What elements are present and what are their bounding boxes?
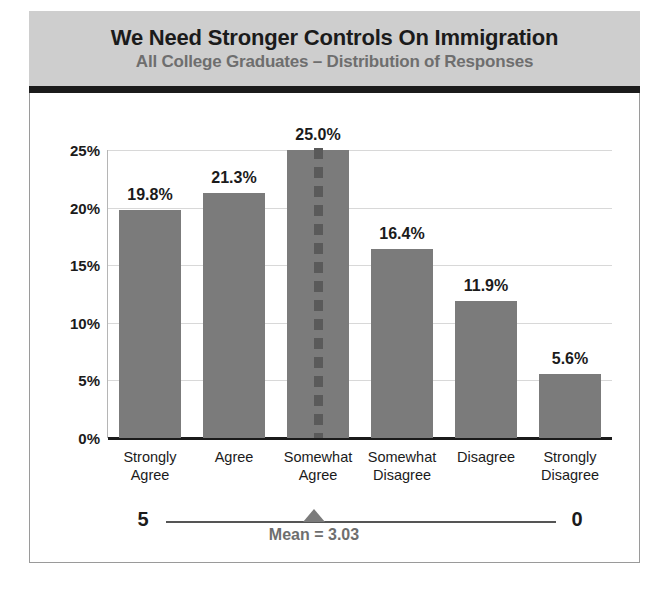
x-axis-category-label: Agree <box>192 448 276 466</box>
scale-left-label: 5 <box>128 508 158 531</box>
mean-scale-line <box>166 521 556 523</box>
gridline <box>108 380 612 381</box>
bar[interactable] <box>119 210 181 438</box>
bar-value-label: 5.6% <box>552 350 588 368</box>
bar-value-label: 16.4% <box>379 225 424 243</box>
gridline <box>108 265 612 266</box>
gridline <box>108 208 612 209</box>
x-axis-category-label: Somewhat Disagree <box>360 448 444 484</box>
bar[interactable] <box>203 193 265 438</box>
x-axis-category-label: Somewhat Agree <box>276 448 360 484</box>
x-axis-category-label: Strongly Agree <box>108 448 192 484</box>
x-axis-category-label: Disagree <box>444 448 528 466</box>
bar[interactable] <box>455 301 517 438</box>
x-axis-category-label: Strongly Disagree <box>528 448 612 484</box>
bar-slot: 5.6% <box>539 150 601 438</box>
page-subtitle: All College Graduates – Distribution of … <box>29 50 640 72</box>
mean-caption: Mean = 3.03 <box>224 526 404 544</box>
bar-value-label: 21.3% <box>211 169 256 187</box>
bar-slot: 19.8% <box>119 150 181 438</box>
chart-header-band: We Need Stronger Controls On Immigration… <box>29 11 640 86</box>
mean-dashed-line <box>314 148 323 438</box>
bar-slot: 21.3% <box>203 150 265 438</box>
gridline <box>108 150 612 151</box>
bar[interactable] <box>371 249 433 438</box>
bar-slot: 16.4% <box>371 150 433 438</box>
header-divider-rule <box>29 86 640 93</box>
bar-value-label: 19.8% <box>127 186 172 204</box>
gridline <box>108 323 612 324</box>
bar-value-label: 25.0% <box>295 126 340 144</box>
mean-marker-triangle-icon <box>303 509 325 522</box>
page-title: We Need Stronger Controls On Immigration <box>29 11 640 50</box>
bar[interactable] <box>539 374 601 439</box>
plot-area: 19.8%21.3%25.0%16.4%11.9%5.6% <box>108 150 612 438</box>
bar-slot: 11.9% <box>455 150 517 438</box>
scale-right-label: 0 <box>562 508 592 531</box>
bar-value-label: 11.9% <box>464 277 508 295</box>
bar-slot: 25.0% <box>287 150 349 438</box>
